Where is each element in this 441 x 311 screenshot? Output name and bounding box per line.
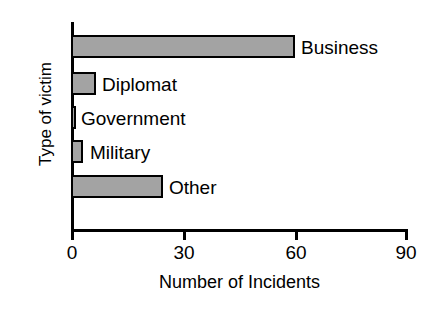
- bar-label-diplomat: Diplomat: [102, 74, 177, 93]
- x-tick-60: [295, 229, 298, 240]
- x-axis-title: Number of Incidents: [71, 272, 408, 293]
- x-tick-label-90: 90: [395, 242, 416, 264]
- bar-label-military: Military: [90, 142, 150, 161]
- bar-chart: Type of victim Business Diplomat Governm…: [0, 0, 441, 311]
- bar-label-other: Other: [169, 177, 217, 196]
- bar-label-business: Business: [301, 37, 378, 56]
- bar-other: [71, 175, 163, 198]
- y-axis-title: Type of victim: [36, 19, 56, 209]
- x-tick-label-30: 30: [173, 242, 194, 264]
- x-tick-0: [71, 229, 74, 240]
- bar-business: [71, 35, 295, 58]
- x-axis-line: 0 30 60 90: [71, 229, 408, 232]
- plot-area: Business Diplomat Government Military Ot…: [71, 22, 408, 231]
- x-tick-90: [405, 229, 408, 240]
- bar-government: [71, 106, 76, 129]
- bar-label-government: Government: [81, 108, 186, 127]
- bar-diplomat: [71, 72, 96, 95]
- bar-military: [71, 140, 83, 163]
- x-tick-label-60: 60: [285, 242, 306, 264]
- x-tick-label-0: 0: [67, 242, 78, 264]
- x-tick-30: [183, 229, 186, 240]
